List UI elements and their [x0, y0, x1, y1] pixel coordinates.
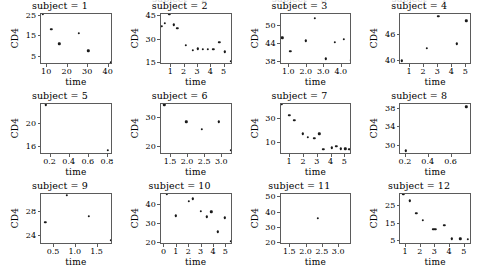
data-point — [402, 193, 404, 195]
data-point — [307, 136, 309, 138]
y-tick-label: 20 — [132, 238, 156, 247]
x-tick-label: 0.6 — [444, 157, 457, 166]
x-tick-label: 5 — [221, 67, 226, 76]
x-axis-label: time — [160, 257, 232, 267]
data-point — [301, 132, 303, 134]
data-point — [224, 216, 226, 218]
data-point — [88, 215, 90, 217]
plot-area — [280, 103, 352, 154]
data-point — [325, 57, 327, 59]
x-tick-label: 4 — [208, 67, 213, 76]
data-point — [281, 103, 283, 105]
x-tick-label: 4 — [210, 247, 215, 256]
facet-panel: subject = 215304512345timeCD4 — [120, 0, 240, 90]
x-tick-label: 5 — [463, 67, 468, 76]
x-tick-label: 3 — [194, 67, 199, 76]
facet-panel: subject = 125152512345timeCD4 — [359, 180, 479, 270]
data-point — [450, 237, 452, 239]
y-tick-mark — [397, 34, 400, 35]
y-tick-mark — [277, 43, 280, 44]
x-axis-label: time — [399, 167, 471, 177]
x-axis-label: time — [40, 257, 112, 267]
y-tick-mark — [277, 25, 280, 26]
x-tick-label: 3 — [432, 247, 437, 256]
data-point — [229, 60, 231, 62]
x-tick-label: 2.0 — [299, 67, 312, 76]
facet-title: subject = 8 — [359, 90, 479, 101]
data-point — [459, 237, 461, 239]
y-tick-mark — [277, 61, 280, 62]
plot-area — [40, 193, 112, 244]
x-tick-label: 20 — [62, 67, 72, 76]
data-point — [168, 13, 170, 15]
plot-area — [160, 103, 232, 154]
x-tick-label: 1 — [403, 247, 408, 256]
x-tick-label: 3.0 — [332, 247, 345, 256]
y-tick-mark — [397, 108, 400, 109]
data-point — [443, 224, 445, 226]
x-tick-label: 5 — [223, 247, 228, 256]
x-tick-label: 10 — [41, 67, 51, 76]
y-axis-label: CD4 — [250, 205, 260, 231]
data-point — [317, 217, 319, 219]
facet-title: subject = 10 — [120, 180, 240, 191]
x-tick-label: 0.2 — [43, 157, 56, 166]
data-point — [313, 137, 315, 139]
x-tick-label: 2.0 — [181, 157, 194, 166]
facet-panel: subject = 620301.52.02.53.0timeCD4 — [120, 90, 240, 180]
facet-title: subject = 9 — [0, 180, 120, 191]
x-tick-label: 5 — [342, 157, 347, 166]
data-point — [87, 50, 89, 52]
data-point — [218, 41, 220, 43]
data-point — [207, 48, 209, 50]
x-axis-label: time — [399, 77, 471, 87]
y-tick-mark — [277, 212, 280, 213]
x-tick-label: 0.5 — [47, 247, 60, 256]
x-tick-label: 0.4 — [421, 157, 434, 166]
y-tick-mark — [38, 35, 41, 36]
data-point — [466, 238, 468, 240]
x-axis-label: time — [399, 257, 471, 267]
data-point — [288, 114, 290, 116]
data-point — [339, 148, 341, 150]
facet-title: subject = 3 — [240, 0, 360, 11]
y-tick-mark — [38, 56, 41, 57]
data-point — [44, 221, 46, 223]
plot-area — [399, 103, 471, 154]
x-tick-label: 3 — [198, 247, 203, 256]
plot-area — [160, 13, 232, 64]
facet-panel: subject = 516200.20.40.60.8timeCD4 — [0, 90, 120, 180]
data-point — [176, 27, 178, 29]
data-point — [185, 44, 187, 46]
x-tick-label: 4.0 — [334, 67, 347, 76]
data-point — [455, 43, 457, 45]
data-point — [330, 146, 332, 148]
y-tick-mark — [397, 126, 400, 127]
x-tick-label: 30 — [82, 67, 92, 76]
x-tick-label: 1.0 — [282, 67, 295, 76]
y-axis-label: CD4 — [10, 25, 20, 51]
data-point — [223, 51, 225, 53]
y-axis-label: CD4 — [250, 25, 260, 51]
plot-area — [40, 103, 112, 154]
x-tick-label: 2.0 — [299, 247, 312, 256]
x-tick-label: 0 — [161, 247, 166, 256]
y-tick-mark — [38, 123, 41, 124]
data-point — [161, 25, 163, 27]
data-point — [437, 15, 439, 17]
data-point — [218, 121, 220, 123]
y-tick-label: 15 — [132, 58, 156, 67]
y-tick-label: 30 — [371, 140, 395, 149]
facet-panel: subject = 7103012345timeCD4 — [240, 90, 360, 180]
y-axis-label: CD4 — [10, 115, 20, 141]
plot-area — [280, 13, 352, 64]
data-point — [166, 193, 168, 195]
x-tick-label: 2 — [181, 67, 186, 76]
data-point — [78, 32, 80, 34]
y-tick-mark — [157, 223, 160, 224]
y-tick-mark — [157, 146, 160, 147]
x-axis-label: time — [160, 77, 232, 87]
x-tick-label: 1 — [173, 247, 178, 256]
plot-area — [160, 193, 232, 244]
x-tick-label: 2 — [417, 247, 422, 256]
